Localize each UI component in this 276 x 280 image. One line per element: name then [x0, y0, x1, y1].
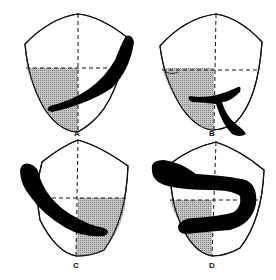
- panel-b: [160, 14, 262, 136]
- figure: A B C D: [0, 0, 276, 280]
- panel-label-a: A: [74, 130, 80, 138]
- panel-a: [25, 14, 134, 132]
- panel-d: [152, 142, 264, 256]
- panel-label-d: D: [209, 262, 215, 270]
- diagram-svg: [0, 0, 276, 280]
- panel-label-b: B: [209, 130, 215, 138]
- panel-label-c: C: [73, 262, 79, 270]
- panel-c: [20, 140, 128, 256]
